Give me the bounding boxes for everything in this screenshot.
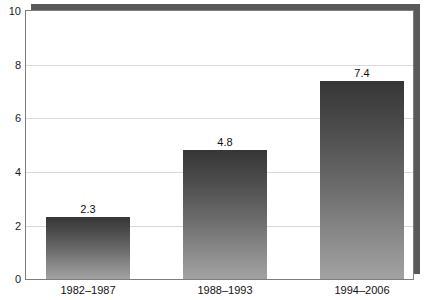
bar-value-label-1: 2.3 xyxy=(46,203,130,215)
y-tick-label-2: 2 xyxy=(1,221,21,232)
x-tick-label-3: 1994–2006 xyxy=(320,284,404,297)
bar-chart: 10 8 6 4 2 0 2.3 4.8 7.4 1982–1987 1988–… xyxy=(0,0,429,300)
bar-1994-2006[interactable] xyxy=(320,81,404,279)
bars-layer: 2.3 4.8 7.4 xyxy=(26,11,413,279)
x-axis: 1982–1987 1988–1993 1994–2006 xyxy=(26,284,413,300)
y-axis: 10 8 6 4 2 0 xyxy=(0,10,21,280)
bar-1988-1993[interactable] xyxy=(183,150,267,279)
bar-value-label-3: 7.4 xyxy=(320,67,404,79)
bar-group-2: 4.8 xyxy=(183,11,267,279)
bar-1982-1987[interactable] xyxy=(46,217,130,279)
bar-group-1: 2.3 xyxy=(46,11,130,279)
y-tick-label-6: 6 xyxy=(1,113,21,124)
y-tick-label-10: 10 xyxy=(1,6,21,17)
x-tick-label-1: 1982–1987 xyxy=(46,284,130,297)
bar-value-label-2: 4.8 xyxy=(183,136,267,148)
bar-group-3: 7.4 xyxy=(320,11,404,279)
y-tick-label-8: 8 xyxy=(1,60,21,71)
y-tick-label-0: 0 xyxy=(1,274,21,285)
x-tick-label-2: 1988–1993 xyxy=(183,284,267,297)
y-tick-label-4: 4 xyxy=(1,167,21,178)
